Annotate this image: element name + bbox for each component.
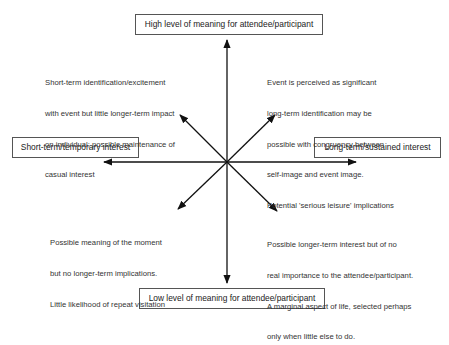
text-line: long-term identification may be [267, 109, 394, 119]
text-line: possible with congruency between [267, 140, 394, 150]
text-line: Possible longer-term interest but of no [267, 240, 413, 250]
text-line: only when little else to do. [267, 332, 413, 342]
text-line: real importance to the attendee/particip… [267, 271, 413, 281]
text-line: but no longer-term implications. [50, 269, 165, 279]
text-line: A marginal aspect of life, selected perh… [267, 302, 413, 312]
text-line: Possible meaning of the moment [50, 238, 165, 248]
text-line: Event is perceived as significant [267, 78, 394, 88]
text-line: with event but little longer-term impact [45, 109, 175, 119]
text-line: casual interest [45, 170, 175, 180]
text-line: Potential 'serious leisure' implications [267, 201, 394, 211]
arrow-up-left [180, 115, 227, 162]
text-line: Short-term identification/excitement [45, 78, 175, 88]
quadrant-bottom-right-text: Possible longer-term interest but of no … [267, 220, 413, 345]
text-line: self-image and event image. [267, 170, 394, 180]
arrow-down-left [178, 162, 227, 209]
quadrant-top-right-text: Event is perceived as significant long-t… [267, 58, 394, 221]
text-line: on individual; possible maintenance of [45, 140, 175, 150]
text-line: Little likelihood of repeat visitation [50, 300, 165, 310]
top-axis-label-box: High level of meaning for attendee/parti… [135, 14, 323, 35]
top-axis-label: High level of meaning for attendee/parti… [145, 19, 314, 29]
quadrant-top-left-text: Short-term identification/excitement wit… [45, 58, 175, 191]
quadrant-bottom-left-text: Possible meaning of the moment but no lo… [50, 218, 165, 320]
